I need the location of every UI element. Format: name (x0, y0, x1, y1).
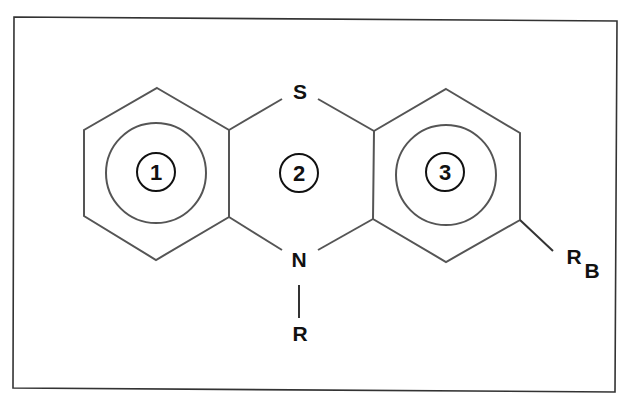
sulfur-atom-label: S (293, 80, 307, 103)
phenothiazine-diagram: 1 2 3 S N R R B (0, 0, 623, 401)
bond-c-s-left (229, 99, 282, 130)
bond-c-n-left (229, 217, 282, 250)
nitrogen-atom-label: N (291, 248, 306, 271)
bond-ring-rb (520, 220, 553, 251)
ring-substituent-subscript: B (584, 259, 599, 282)
ring-1-label: 1 (150, 160, 162, 185)
diagram-frame (13, 17, 617, 392)
ring-2-label: 2 (293, 161, 305, 186)
ring-3-label: 3 (439, 160, 451, 185)
n-substituent-label: R (292, 322, 307, 345)
bond-s-c-right (318, 99, 374, 131)
bond-n-c-right (318, 219, 373, 250)
ring-substituent-label: R (566, 245, 581, 268)
